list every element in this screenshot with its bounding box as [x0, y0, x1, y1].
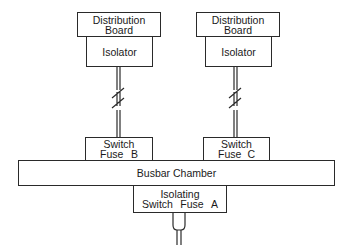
switch-fuse-b: Switch Fuse B	[85, 137, 153, 161]
isolator-right-label: Isolator	[221, 47, 255, 57]
db-right-line1: Distribution	[212, 15, 265, 25]
busbar-chamber: Busbar Chamber	[18, 160, 335, 186]
main-switch-word1: Switch	[142, 199, 173, 209]
switch-fuse-c-letter: C	[247, 149, 255, 159]
switch-fuse-b-letter: B	[131, 149, 138, 159]
main-switch-letter: A	[211, 199, 218, 209]
switch-fuse-c: Switch Fuse C	[203, 137, 270, 161]
db-left-line2: Board	[105, 25, 133, 35]
isolator-left-label: Isolator	[102, 47, 136, 57]
db-right-line2: Board	[224, 25, 252, 35]
isolating-switch-fuse-a: Isolating Switch Fuse A	[133, 185, 227, 213]
distribution-board-left: Distribution Board	[77, 12, 161, 37]
isolator-right: Isolator	[205, 36, 272, 67]
distribution-board-right: Distribution Board	[196, 12, 280, 37]
db-left-line1: Distribution	[93, 15, 146, 25]
switch-fuse-b-word: Fuse	[100, 149, 123, 159]
switch-fuse-c-word: Fuse	[218, 149, 241, 159]
isolator-left: Isolator	[86, 36, 153, 67]
main-switch-word2: Fuse	[180, 199, 203, 209]
busbar-label: Busbar Chamber	[137, 168, 216, 178]
